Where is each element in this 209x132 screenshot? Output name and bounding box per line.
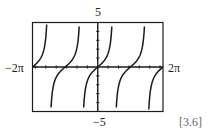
x-min-label: −2π: [5, 62, 24, 74]
x-max-label: 2π: [168, 62, 180, 74]
figure-caption: [3.6]: [179, 116, 202, 128]
y-min-label: −5: [93, 116, 106, 128]
y-max-label: 5: [95, 6, 101, 18]
